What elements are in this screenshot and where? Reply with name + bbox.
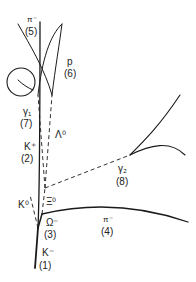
track-pi-minus-4 <box>42 207 188 222</box>
track-xi-zero <box>42 188 45 214</box>
label-lambda-zero: Λ⁰ <box>55 129 66 140</box>
label-k-plus: K⁺ <box>24 141 36 152</box>
label-gamma2: γ₂ <box>118 163 127 174</box>
label-pi-minus-4: π⁻ <box>103 215 113 224</box>
label-num-4: (4) <box>101 226 113 237</box>
track-proton-arc <box>38 24 62 95</box>
label-gamma1: γ₁ <box>23 106 32 117</box>
label-pi-minus-5: π⁻ <box>27 15 37 24</box>
track-k-zero <box>30 195 38 228</box>
label-num-3: (3) <box>44 229 56 240</box>
label-k-zero: K⁰ <box>18 199 29 210</box>
label-num-6: (6) <box>64 68 76 79</box>
track-lambda-zero <box>45 95 52 188</box>
label-num-8: (8) <box>116 176 128 187</box>
label-omega-minus: Ω⁻ <box>46 217 58 228</box>
label-proton: p <box>67 56 73 67</box>
label-num-2: (2) <box>21 153 33 164</box>
label-k-minus: K⁻ <box>42 247 54 258</box>
track-k-minus <box>35 228 38 268</box>
label-num-5: (5) <box>25 26 37 37</box>
track-k-plus <box>38 22 40 228</box>
label-num-1: (1) <box>39 260 51 271</box>
bubble-chamber-diagram: π⁻ (5) p (6) γ₁ (7) Λ⁰ K⁺ (2) γ₂ (8) K⁰ … <box>0 0 196 282</box>
electron-spiral <box>7 68 35 96</box>
label-num-7: (7) <box>20 118 32 129</box>
label-xi-zero: Ξ⁰ <box>46 196 57 207</box>
